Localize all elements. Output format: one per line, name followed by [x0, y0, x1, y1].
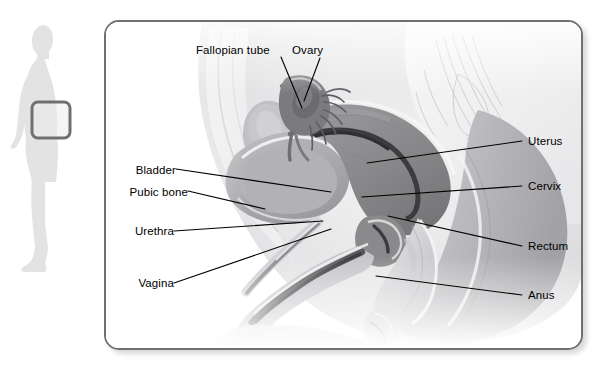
- label-bladder: Bladder: [44, 165, 176, 177]
- label-anus: Anus: [528, 290, 555, 302]
- label-uterus: Uterus: [528, 136, 562, 148]
- label-vagina: Vagina: [44, 278, 174, 290]
- label-fallopian-tube: Fallopian tube: [196, 45, 270, 57]
- label-cervix: Cervix: [528, 181, 561, 193]
- label-pubic-bone: Pubic bone: [44, 187, 188, 199]
- panel-wrapper: Fallopian tube Ovary Bladder Pubic bone …: [0, 0, 601, 383]
- diagram-panel: [104, 20, 583, 350]
- anatomy-illustration: [106, 22, 581, 348]
- label-ovary: Ovary: [292, 45, 323, 57]
- label-urethra: Urethra: [44, 226, 174, 238]
- top-fade: [106, 22, 581, 348]
- label-rectum: Rectum: [528, 241, 568, 253]
- figure-root: Fallopian tube Ovary Bladder Pubic bone …: [0, 0, 601, 383]
